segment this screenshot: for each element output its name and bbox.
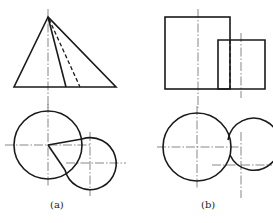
small-circle-arc <box>65 138 116 190</box>
technical-drawing <box>0 0 273 223</box>
panel-a-top-view <box>5 104 126 196</box>
visible-edge <box>48 17 66 87</box>
radial-line-1 <box>48 139 82 145</box>
triangle-outline <box>14 17 116 87</box>
large-rect <box>165 17 230 89</box>
panel-b-top-view <box>157 106 273 198</box>
small-circle-b-arc <box>228 118 273 170</box>
figure: (a) (b) <box>0 0 273 223</box>
caption-a: (a) <box>50 199 64 210</box>
panel-b-front-view <box>165 9 265 108</box>
small-rect <box>218 40 265 89</box>
hidden-edge <box>49 19 80 87</box>
radial-line-2 <box>48 145 65 170</box>
caption-b: (b) <box>201 199 215 210</box>
panel-a-front-view <box>14 9 116 108</box>
